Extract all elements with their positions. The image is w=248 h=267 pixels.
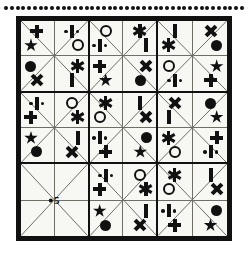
plus-symbol bbox=[93, 60, 106, 73]
symbol-slot-br-bottom[interactable] bbox=[130, 217, 150, 233]
star-symbol bbox=[24, 38, 38, 52]
star-symbol bbox=[204, 218, 218, 232]
puzzle-block-r1c3[interactable] bbox=[158, 21, 227, 93]
dotted-bar-symbol bbox=[167, 74, 182, 87]
plus-symbol bbox=[93, 183, 106, 196]
decor-dot bbox=[223, 6, 227, 10]
open-circle-symbol bbox=[72, 39, 84, 51]
cross-x-symbol bbox=[140, 60, 153, 73]
symbol-slot-bl-bottom[interactable] bbox=[27, 73, 47, 88]
open-circle-symbol bbox=[163, 60, 175, 72]
decor-dot bbox=[136, 6, 140, 10]
symbol-slot-br-bottom[interactable] bbox=[62, 144, 82, 159]
filled-circle-symbol bbox=[100, 220, 111, 231]
decor-dot bbox=[73, 6, 77, 10]
block-symbol-slots bbox=[90, 164, 157, 236]
symbol-slot-tr-right[interactable] bbox=[136, 38, 156, 53]
symbol-slot-br-bottom[interactable] bbox=[62, 73, 82, 88]
symbol-slot-tl-left[interactable] bbox=[90, 109, 110, 124]
center-mark-glyph: 5 bbox=[54, 195, 60, 206]
symbol-slot-bl-bottom[interactable] bbox=[96, 144, 116, 159]
decor-dot bbox=[44, 6, 48, 10]
plus-symbol bbox=[210, 131, 223, 144]
dotted-bar-symbol bbox=[98, 169, 113, 182]
symbol-slot-bl-bottom[interactable] bbox=[96, 217, 116, 233]
puzzle-block-r3c2[interactable] bbox=[90, 164, 159, 236]
filled-circle-symbol bbox=[141, 132, 152, 143]
cross-x-symbol bbox=[204, 25, 217, 38]
block-center-mark: 5 bbox=[49, 195, 60, 206]
asterisk-symbol bbox=[133, 24, 147, 38]
puzzle-page: 5 bbox=[0, 0, 248, 267]
decor-dot bbox=[56, 6, 60, 10]
decor-dot bbox=[131, 6, 135, 10]
cross-x-symbol bbox=[140, 111, 153, 124]
puzzle-block-r2c3[interactable] bbox=[158, 93, 227, 165]
puzzle-block-r1c1[interactable] bbox=[21, 21, 90, 93]
symbol-slot-bl-bottom[interactable] bbox=[165, 73, 186, 88]
decor-dot bbox=[16, 6, 20, 10]
open-circle-symbol bbox=[66, 97, 78, 109]
puzzle-block-r3c3[interactable] bbox=[158, 164, 227, 236]
symbol-slot-br-bottom[interactable] bbox=[200, 144, 221, 159]
symbol-slot-br-bottom[interactable] bbox=[62, 217, 82, 233]
plus-symbol bbox=[168, 219, 181, 232]
decor-dot bbox=[159, 6, 163, 10]
decor-dot bbox=[200, 6, 204, 10]
symbol-slot-br-bottom[interactable] bbox=[130, 73, 150, 88]
decor-dot bbox=[125, 6, 129, 10]
block-symbol-slots bbox=[90, 93, 157, 163]
symbol-slot-tl-left[interactable] bbox=[90, 182, 110, 198]
symbol-slot-tl-left[interactable] bbox=[90, 38, 110, 53]
symbol-slot-bl-bottom[interactable] bbox=[27, 217, 47, 233]
symbol-slot-tl-left[interactable] bbox=[158, 182, 179, 198]
decor-dot bbox=[113, 6, 117, 10]
symbol-slot-tr-right[interactable] bbox=[68, 38, 88, 53]
symbol-slot-bl-bottom[interactable] bbox=[27, 144, 47, 159]
puzzle-block-r2c2[interactable] bbox=[90, 93, 159, 165]
symbol-slot-br-bottom[interactable] bbox=[200, 217, 221, 233]
symbol-slot-tl-left[interactable] bbox=[158, 38, 179, 53]
symbol-slot-tl-left[interactable] bbox=[21, 38, 41, 53]
decor-dot bbox=[102, 6, 106, 10]
symbol-slot-bl-bottom[interactable] bbox=[96, 73, 116, 88]
puzzle-block-r2c1[interactable] bbox=[21, 93, 90, 165]
symbol-slot-tr-right[interactable] bbox=[136, 182, 156, 198]
symbol-slot-bl-bottom[interactable] bbox=[165, 217, 186, 233]
decor-dot bbox=[62, 6, 66, 10]
decor-dot bbox=[10, 6, 14, 10]
symbol-slot-br-bottom[interactable] bbox=[130, 144, 150, 159]
decor-dot bbox=[182, 6, 186, 10]
star-symbol bbox=[24, 131, 38, 145]
decor-dot bbox=[21, 6, 25, 10]
decor-dot bbox=[4, 6, 8, 10]
decor-dot bbox=[96, 6, 100, 10]
decor-dot bbox=[205, 6, 209, 10]
symbol-slot-tr-right[interactable] bbox=[136, 109, 156, 124]
symbol-slot-tr-right[interactable] bbox=[206, 182, 227, 198]
decor-dot bbox=[108, 6, 112, 10]
symbol-slot-tr-right[interactable] bbox=[206, 38, 227, 53]
symbol-slot-br-bottom[interactable] bbox=[200, 73, 221, 88]
dotted-bar-symbol bbox=[29, 97, 44, 110]
decor-dot bbox=[27, 6, 31, 10]
puzzle-block-r1c2[interactable] bbox=[90, 21, 159, 93]
symbol-slot-tr-right[interactable] bbox=[68, 182, 88, 198]
symbol-slot-tl-left[interactable] bbox=[21, 182, 41, 198]
block-symbol-slots bbox=[21, 93, 88, 163]
decor-dot bbox=[90, 6, 94, 10]
puzzle-block-r3c1[interactable]: 5 bbox=[21, 164, 90, 236]
cross-x-symbol bbox=[30, 74, 43, 87]
asterisk-symbol bbox=[162, 131, 176, 145]
symbol-slot-tr-right[interactable] bbox=[206, 109, 227, 124]
symbol-slot-bl-bottom[interactable] bbox=[165, 144, 186, 159]
block-symbol-slots bbox=[90, 21, 157, 91]
block-symbol-slots bbox=[158, 164, 227, 236]
block-symbol-slots bbox=[21, 21, 88, 91]
symbol-slot-tr-right[interactable] bbox=[68, 109, 88, 124]
cross-x-symbol bbox=[65, 145, 78, 158]
puzzle-frame: 5 bbox=[16, 16, 232, 241]
decor-dot bbox=[85, 6, 89, 10]
symbol-slot-tl-left[interactable] bbox=[21, 109, 41, 124]
symbol-slot-tl-left[interactable] bbox=[158, 109, 179, 124]
